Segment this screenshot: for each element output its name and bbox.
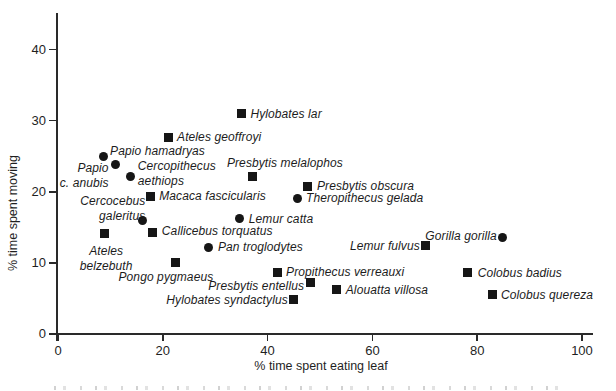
x-axis-tick-label: 40 bbox=[253, 344, 283, 358]
data-point-marker bbox=[100, 229, 109, 238]
data-point-marker bbox=[148, 228, 157, 237]
data-point-marker bbox=[248, 172, 257, 181]
y-axis-tick bbox=[49, 262, 57, 264]
data-point-marker bbox=[463, 268, 472, 277]
species-label: Papioc. anubis bbox=[60, 161, 109, 191]
x-axis-tick-label: 100 bbox=[567, 344, 597, 358]
y-axis-tick bbox=[49, 120, 57, 122]
x-axis-tick bbox=[57, 335, 59, 342]
species-label: Cercopithecusaethiops bbox=[138, 159, 216, 189]
y-axis-tick bbox=[49, 49, 57, 51]
species-label: Pan troglodytes bbox=[218, 240, 303, 255]
species-label: Presbytis melalophos bbox=[227, 156, 343, 171]
x-axis-tick-label: 60 bbox=[357, 344, 387, 358]
x-axis-tick bbox=[162, 335, 164, 342]
data-point-marker bbox=[235, 214, 244, 223]
data-point-marker bbox=[289, 295, 298, 304]
cropped-caption-remnant bbox=[54, 386, 559, 390]
species-label: Alouatta villosa bbox=[346, 283, 428, 298]
y-axis-tick-label: 30 bbox=[20, 114, 46, 128]
species-label: Pongo pygmaeus bbox=[118, 270, 213, 285]
species-label: Colobus quereza bbox=[501, 288, 593, 303]
data-point-marker bbox=[488, 290, 497, 299]
y-axis-tick-label: 10 bbox=[20, 256, 46, 270]
data-point-marker bbox=[204, 243, 213, 252]
y-axis-tick-label: 0 bbox=[20, 327, 46, 341]
x-axis-line bbox=[56, 333, 593, 335]
data-point-marker bbox=[146, 192, 155, 201]
data-point-marker bbox=[306, 278, 315, 287]
data-point-marker bbox=[332, 285, 341, 294]
species-label: Propithecus verreauxi bbox=[286, 265, 404, 280]
data-point-marker bbox=[171, 258, 180, 267]
y-axis-title: % time spent moving bbox=[6, 103, 20, 323]
species-label: Hylobates lar bbox=[250, 107, 321, 122]
species-label: Papio hamadryas bbox=[110, 144, 205, 159]
data-point-marker bbox=[303, 182, 312, 191]
species-label: Cercocebusgaleritus bbox=[80, 194, 145, 224]
data-point-marker bbox=[498, 233, 507, 242]
x-axis-tick-label: 0 bbox=[43, 344, 73, 358]
x-axis-tick-label: 20 bbox=[148, 344, 178, 358]
data-point-marker bbox=[293, 194, 302, 203]
x-axis-title: % time spent eating leaf bbox=[254, 359, 387, 373]
species-label: Macaca fascicularis bbox=[159, 189, 266, 204]
species-label: Callicebus torquatus bbox=[162, 224, 273, 239]
x-axis-tick bbox=[581, 335, 583, 342]
y-axis-line bbox=[56, 13, 58, 341]
species-label: Colobus badius bbox=[478, 266, 562, 281]
x-axis-tick bbox=[476, 335, 478, 342]
x-axis-tick bbox=[372, 335, 374, 342]
scatter-plot-figure: % time spent moving % time spent eating … bbox=[0, 0, 616, 391]
species-label: Ateles geoffroyi bbox=[177, 130, 261, 145]
species-label: Lemur fulvus bbox=[350, 239, 420, 254]
data-point-marker bbox=[111, 160, 120, 169]
y-axis-tick bbox=[49, 333, 57, 335]
data-point-marker bbox=[99, 152, 108, 161]
species-label: Presbytis entellus bbox=[208, 279, 304, 294]
species-label: Hylobates syndactylus bbox=[166, 293, 288, 308]
species-label: Theropithecus gelada bbox=[306, 191, 423, 206]
x-axis-tick bbox=[267, 335, 269, 342]
data-point-marker bbox=[126, 172, 135, 181]
data-point-marker bbox=[164, 133, 173, 142]
y-axis-tick bbox=[49, 191, 57, 193]
y-axis-tick-label: 40 bbox=[20, 43, 46, 57]
species-label: Gorilla gorilla bbox=[425, 229, 497, 244]
data-point-marker bbox=[421, 241, 430, 250]
x-axis-tick-label: 80 bbox=[462, 344, 492, 358]
y-axis-tick-label: 20 bbox=[20, 185, 46, 199]
data-point-marker bbox=[237, 109, 246, 118]
data-point-marker bbox=[273, 268, 282, 277]
